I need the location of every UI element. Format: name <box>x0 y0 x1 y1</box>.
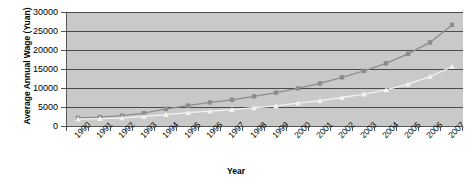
data-point-square <box>384 61 388 65</box>
series-line <box>78 67 452 119</box>
data-point-square <box>186 103 190 107</box>
data-point-square <box>450 23 454 27</box>
x-tick-mark <box>418 126 419 131</box>
plot-area <box>66 12 463 127</box>
data-point-square <box>208 100 212 104</box>
data-point-square <box>406 52 410 56</box>
x-tick-mark <box>396 126 397 131</box>
chart-container: Average Annual Wage (Yuan) 0500010000150… <box>0 0 472 183</box>
y-tick-label: 10000 <box>0 83 58 93</box>
data-point-square <box>164 107 168 111</box>
x-tick-mark <box>374 126 375 131</box>
plot-inner <box>67 12 463 126</box>
x-tick-mark <box>286 126 287 131</box>
x-tick-mark <box>176 126 177 131</box>
series-line <box>78 25 452 118</box>
data-point-square <box>274 90 278 94</box>
x-tick-mark <box>220 126 221 131</box>
data-point-square <box>362 69 366 73</box>
x-tick-mark <box>110 126 111 131</box>
y-tick-label: 0 <box>0 121 58 131</box>
x-tick-mark <box>198 126 199 131</box>
y-tick-label: 25000 <box>0 26 58 36</box>
x-tick-mark <box>462 126 463 131</box>
x-tick-mark <box>308 126 309 131</box>
y-tick-label: 30000 <box>0 7 58 17</box>
data-point-square <box>428 40 432 44</box>
data-series-layer <box>67 12 463 126</box>
x-tick-mark <box>264 126 265 131</box>
x-tick-mark <box>88 126 89 131</box>
data-point-square <box>296 86 300 90</box>
y-tick-label: 20000 <box>0 45 58 55</box>
data-point-triangle <box>449 64 455 69</box>
data-point-square <box>318 81 322 85</box>
x-tick-mark <box>132 126 133 131</box>
y-tick-label: 15000 <box>0 64 58 74</box>
x-tick-mark <box>440 126 441 131</box>
data-point-square <box>230 98 234 102</box>
x-tick-mark <box>66 126 67 131</box>
x-tick-mark <box>330 126 331 131</box>
data-point-square <box>340 75 344 79</box>
y-tick-label: 5000 <box>0 102 58 112</box>
x-tick-mark <box>352 126 353 131</box>
x-tick-mark <box>242 126 243 131</box>
data-point-square <box>252 94 256 98</box>
x-tick-mark <box>154 126 155 131</box>
x-axis-title: Year <box>0 166 472 176</box>
